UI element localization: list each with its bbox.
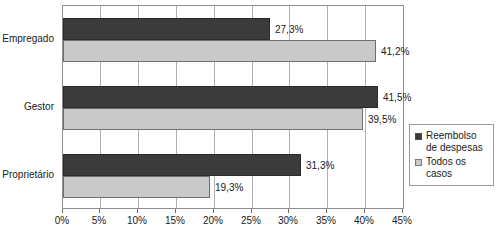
x-tick-label-40: 40%	[354, 214, 374, 227]
bar-groups: 27,3% 41,2% 41,5% 39,5% 31,3%	[63, 6, 403, 208]
x-tick-label-30: 30%	[278, 214, 298, 227]
tick-10	[137, 209, 138, 213]
bar-proprietario-reembolso[interactable]: 31,3%	[63, 154, 301, 176]
legend-item-todos[interactable]: Todos os casos	[415, 156, 489, 180]
category-label-empregado: Empregado	[2, 5, 54, 73]
bar-value-label: 31,3%	[306, 160, 334, 171]
x-tick-label-10: 10%	[127, 214, 147, 227]
bar-value-label: 41,5%	[383, 92, 411, 103]
legend-label-line2: de despesas	[426, 142, 483, 153]
category-label-proprietario: Proprietário	[2, 141, 54, 209]
x-tick-label-45: 45%	[392, 214, 412, 227]
category-label-gestor: Gestor	[24, 73, 54, 141]
legend-label-line1: Reembolso	[426, 130, 477, 141]
tick-15	[175, 209, 176, 213]
legend-item-label: Reembolsode despesas	[426, 130, 483, 154]
tick-20	[213, 209, 214, 213]
bar-chart: Empregado Gestor Proprietário 27,3% 41,2…	[0, 0, 498, 235]
x-tick-label-20: 20%	[203, 214, 223, 227]
light-square-icon	[415, 159, 422, 166]
bar-empregado-todos[interactable]: 41,2%	[63, 40, 376, 62]
tick-0	[62, 209, 63, 213]
legend-item-reembolso[interactable]: Reembolsode despesas	[415, 130, 489, 154]
bar-group-proprietario: 31,3% 19,3%	[63, 142, 403, 210]
bar-value-label: 19,3%	[215, 182, 243, 193]
tick-25	[251, 209, 252, 213]
x-tick-label-15: 15%	[165, 214, 185, 227]
bar-group-gestor: 41,5% 39,5%	[63, 74, 403, 142]
dark-square-icon	[415, 133, 422, 140]
bar-value-label: 41,2%	[381, 46, 409, 57]
x-tick-label-35: 35%	[316, 214, 336, 227]
tick-30	[288, 209, 289, 213]
value-axis-labels: 0% 5% 10% 15% 20% 25% 30% 35% 40% 45%	[62, 214, 404, 230]
bar-proprietario-todos[interactable]: 19,3%	[63, 176, 210, 198]
chart-legend: Reembolsode despesas Todos os casos	[409, 124, 494, 186]
bar-value-label: 39,5%	[368, 114, 396, 125]
bar-gestor-todos[interactable]: 39,5%	[63, 108, 363, 130]
bar-gestor-reembolso[interactable]: 41,5%	[63, 86, 378, 108]
bar-empregado-reembolso[interactable]: 27,3%	[63, 18, 270, 40]
category-axis: Empregado Gestor Proprietário	[0, 5, 58, 209]
tick-35	[326, 209, 327, 213]
x-tick-label-0: 0%	[55, 214, 69, 227]
tick-40	[364, 209, 365, 213]
legend-item-label: Todos os casos	[426, 156, 489, 180]
tick-45	[402, 209, 403, 213]
x-tick-label-25: 25%	[241, 214, 261, 227]
bar-group-empregado: 27,3% 41,2%	[63, 6, 403, 74]
tick-5	[99, 209, 100, 213]
plot-area: 27,3% 41,2% 41,5% 39,5% 31,3%	[62, 5, 404, 209]
x-tick-label-5: 5%	[92, 214, 106, 227]
bar-value-label: 27,3%	[275, 24, 303, 35]
